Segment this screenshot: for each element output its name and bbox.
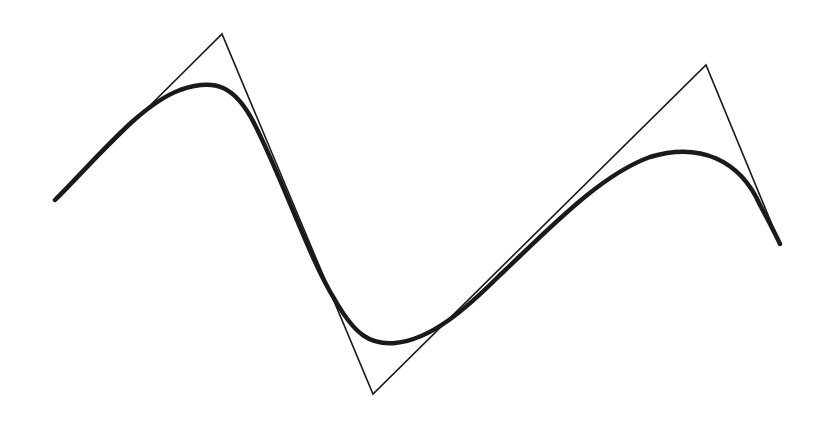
spline-diagram <box>0 0 827 428</box>
background <box>0 0 827 428</box>
